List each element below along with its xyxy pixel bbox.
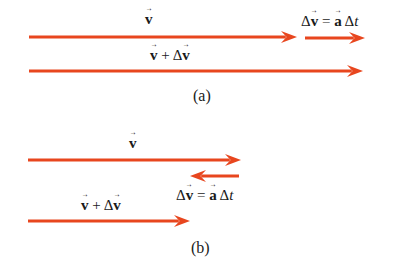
caption-a: (a) — [193, 88, 211, 104]
b-label-v-plus-delta-v: v + Δv — [81, 198, 121, 213]
a-arrow-v-plus-delta-v — [29, 65, 363, 77]
vector-addition-diagram: v Δv = a Δt v + Δv (a) v Δv = a Δt v + Δ… — [0, 0, 405, 276]
b-label-delta-v: Δv = a Δt — [176, 188, 233, 203]
a-label-delta-v: Δv = a Δt — [301, 14, 358, 29]
a-label-v: v — [145, 12, 153, 27]
b-arrow-v — [28, 154, 241, 166]
a-label-v-plus-delta-v: v + Δv — [150, 48, 190, 63]
arrows-layer — [0, 0, 405, 276]
b-label-v: v — [129, 136, 137, 151]
a-arrow-delta-v — [305, 32, 365, 44]
a-arrow-v — [29, 31, 297, 43]
b-arrow-v-plus-delta-v — [28, 215, 190, 227]
caption-b: (b) — [191, 240, 210, 256]
